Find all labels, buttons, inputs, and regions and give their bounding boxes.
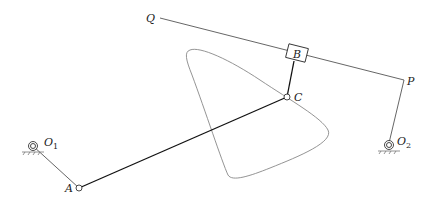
joint-a <box>76 185 82 191</box>
label-o2-sub: 2 <box>406 141 411 150</box>
label-o1-sub: 1 <box>53 142 58 151</box>
label-p: P <box>406 75 415 88</box>
label-b: B <box>292 48 301 61</box>
label-o2: O2 <box>397 135 411 150</box>
link-a-c <box>79 97 287 188</box>
label-o2-main: O <box>397 135 406 148</box>
coupler-curve <box>186 49 328 178</box>
linkage-diagram: Q B P C A O1 O2 <box>0 0 432 201</box>
label-c: C <box>294 91 303 104</box>
label-q: Q <box>146 12 155 25</box>
joint-c <box>284 94 290 100</box>
label-o1: O1 <box>44 136 58 151</box>
link-c-b <box>287 61 294 97</box>
label-o1-main: O <box>44 136 53 149</box>
link-p-o2 <box>389 80 404 143</box>
label-a: A <box>64 182 73 195</box>
